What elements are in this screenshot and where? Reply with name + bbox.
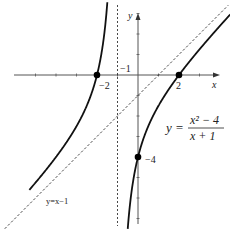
point-marker: [94, 72, 101, 79]
equation-denominator: x + 1: [189, 129, 215, 143]
equation-numerator: x² − 4: [189, 113, 219, 127]
equation: y = x² − 4 x + 1: [164, 113, 224, 143]
x-axis-label: x: [211, 79, 217, 90]
x-axis-arrow: [213, 73, 220, 78]
tick-label-minus-2: −2: [99, 80, 110, 91]
y-axis-arrow: [136, 13, 141, 20]
point-marker: [135, 154, 142, 161]
asymptote-label: y=x−1: [46, 196, 68, 206]
graph: y x −1 −2 2 −4 y=x−1 y = x² − 4 x + 1: [0, 0, 230, 229]
tick-label-2: 2: [176, 80, 181, 91]
equation-lhs: y =: [164, 120, 184, 135]
tick-label-minus-4: −4: [145, 154, 156, 165]
curve-left-branch: [29, 2, 107, 190]
y-axis-label: y: [127, 10, 133, 21]
point-marker: [176, 72, 183, 79]
tick-label-minus-1: −1: [120, 63, 131, 74]
